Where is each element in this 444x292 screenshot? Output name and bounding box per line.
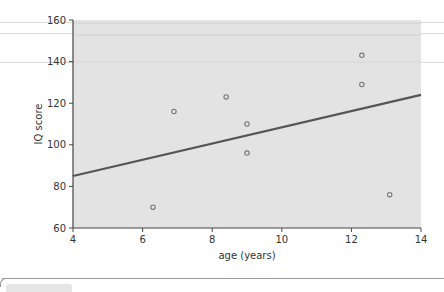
y-tick-label: 60 [53,223,66,234]
x-tick-label: 6 [139,234,145,245]
y-axis-label: IQ score [33,104,44,145]
y-axis-ticks: 6080100120140160 [47,15,73,234]
x-tick-label: 12 [345,234,358,245]
y-tick-label: 120 [47,98,66,109]
y-tick-label: 100 [47,139,66,150]
y-tick-label: 140 [47,56,66,67]
y-tick-label: 80 [53,181,66,192]
x-axis-ticks: 468101214 [70,228,428,245]
panel-divider [2,278,444,279]
x-tick-label: 4 [70,234,76,245]
panel-tab[interactable] [6,284,72,292]
x-tick-label: 10 [275,234,288,245]
plot-area [73,20,421,228]
x-tick-label: 14 [415,234,428,245]
y-tick-label: 160 [47,15,66,26]
x-tick-label: 8 [209,234,215,245]
x-axis-label: age (years) [218,250,275,261]
